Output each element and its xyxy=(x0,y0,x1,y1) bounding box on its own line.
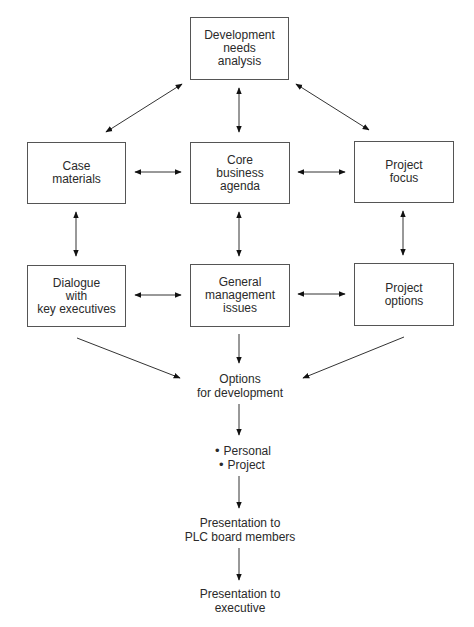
node-development-needs-analysis: Development needs analysis xyxy=(190,17,289,80)
node-text-line: Project xyxy=(385,282,424,295)
node-project-focus: Project focus xyxy=(354,141,454,203)
node-text-line: PLC board members xyxy=(170,530,310,544)
node-text-line: Options xyxy=(180,372,300,386)
node-text-line: Presentation to xyxy=(170,587,310,601)
node-text-line: agenda xyxy=(216,180,263,193)
node-options-for-development: Options for development xyxy=(180,372,300,400)
node-text-line: focus xyxy=(385,172,422,185)
node-text-line: with xyxy=(37,290,116,303)
node-text-line: Presentation to xyxy=(170,516,310,530)
node-text-line: Core xyxy=(216,154,263,167)
bullet-item-personal: Personal xyxy=(215,444,271,458)
node-project-options: Project options xyxy=(354,263,454,326)
bullet-item-project: Project xyxy=(219,458,271,472)
node-text-line: Dialogue xyxy=(37,277,116,290)
node-text-line: issues xyxy=(205,302,275,315)
node-text-line: key executives xyxy=(37,303,116,316)
node-core-business-agenda: Core business agenda xyxy=(190,142,290,204)
node-presentation-plc-board: Presentation to PLC board members xyxy=(170,516,310,544)
node-dialogue-key-executives: Dialogue with key executives xyxy=(27,265,126,327)
node-text-line: executive xyxy=(170,601,310,615)
node-text-line: analysis xyxy=(204,55,275,68)
node-presentation-executive: Presentation to executive xyxy=(170,587,310,615)
node-general-management-issues: General management issues xyxy=(190,264,290,327)
node-text-line: options xyxy=(385,295,424,308)
node-text-line: for development xyxy=(180,386,300,400)
node-text-line: materials xyxy=(52,173,101,186)
node-case-materials: Case materials xyxy=(27,142,126,204)
node-text-line: business xyxy=(216,167,263,180)
bullet-list: Personal Project xyxy=(215,444,271,472)
